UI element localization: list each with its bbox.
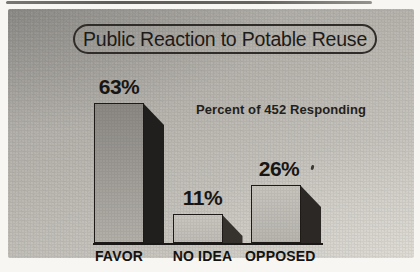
- bar-value-label: 11%: [178, 186, 228, 210]
- photo-area: Public Reaction to Potable Reuse Percent…: [8, 9, 414, 258]
- bar-side-face: [143, 103, 164, 243]
- bar-front-face: [94, 103, 144, 243]
- bar-no-idea: 11% NO IDEA: [173, 214, 243, 243]
- bar-front-face: [251, 185, 301, 243]
- scanned-chart-photo: Public Reaction to Potable Reuse Percent…: [0, 0, 420, 272]
- bar-category-label: OPPOSED: [245, 248, 313, 264]
- bar-category-label: FAVOR: [85, 248, 153, 264]
- bar-side-face: [300, 185, 321, 243]
- bar-chart: 63% FAVOR 11% NO IDEA 26% OPPOSED: [8, 9, 414, 258]
- bar-value-label: 63%: [94, 75, 144, 99]
- bar-category-label: NO IDEA: [169, 248, 237, 264]
- scan-streak: [6, 1, 372, 4]
- bar-value-label: 26%: [254, 157, 304, 181]
- bar-front-face: [173, 214, 223, 243]
- bar-side-face: [222, 214, 243, 243]
- bar-opposed: 26% OPPOSED: [251, 185, 321, 243]
- bar-favor: 63% FAVOR: [94, 103, 164, 243]
